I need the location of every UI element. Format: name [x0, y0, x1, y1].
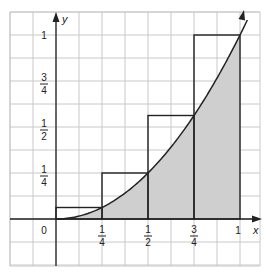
x-tick-1-denominator: 4	[99, 237, 105, 248]
y-tick-labels: 1412341	[40, 30, 48, 188]
y-axis-arrow-icon	[53, 12, 60, 22]
y-axis-label: y	[61, 13, 69, 25]
origin-label: 0	[41, 225, 47, 236]
x-axis-label: x	[252, 224, 259, 236]
y-tick-3-numerator: 3	[41, 72, 47, 83]
riemann-sum-diagram: y x 0 1412341 1412341	[0, 0, 270, 275]
x-tick-3-denominator: 4	[191, 237, 197, 248]
y-tick-2-numerator: 1	[41, 118, 47, 129]
x-tick-4: 1	[235, 225, 241, 236]
x-tick-3-numerator: 3	[191, 224, 197, 235]
x-tick-1-numerator: 1	[99, 224, 105, 235]
y-tick-4: 1	[41, 30, 47, 41]
x-tick-2-denominator: 2	[145, 237, 151, 248]
y-tick-3-denominator: 4	[41, 85, 47, 96]
y-tick-2-denominator: 2	[41, 131, 47, 142]
x-tick-labels: 1412341	[98, 224, 241, 248]
y-tick-1-denominator: 4	[41, 177, 47, 188]
y-tick-1-numerator: 1	[41, 164, 47, 175]
x-tick-2-numerator: 1	[145, 224, 151, 235]
